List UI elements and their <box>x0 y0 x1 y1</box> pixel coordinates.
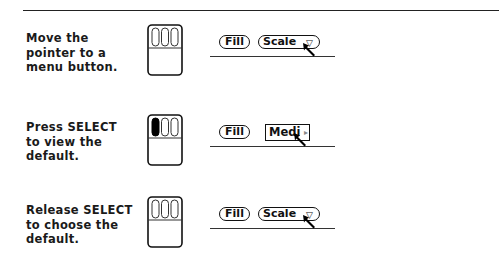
step-2: Press SELECT to view the default. Fill M… <box>0 103 499 183</box>
control-area: Fill Scale ▽ <box>210 35 340 75</box>
scale-menu-label: Scale <box>263 208 296 220</box>
arrow-pointer-icon <box>302 42 318 58</box>
control-underline <box>210 146 335 147</box>
three-button-mouse-icon <box>147 196 183 248</box>
step-2-instruction: Press SELECT to view the default. <box>26 120 117 164</box>
fill-button[interactable]: Fill <box>219 35 250 49</box>
step-3-instruction: Release SELECT to choose the default. <box>26 203 133 247</box>
arrow-pointer-icon <box>302 214 318 230</box>
fill-button[interactable]: Fill <box>219 207 250 221</box>
step-3: Release SELECT to choose the default. Fi… <box>0 187 499 267</box>
step-1: Move the pointer to a menu button. Fill … <box>0 20 499 100</box>
top-divider <box>23 10 499 11</box>
fill-button[interactable]: Fill <box>219 125 250 139</box>
three-button-mouse-select-pressed-icon <box>147 114 183 166</box>
three-button-mouse-icon <box>147 24 183 76</box>
arrow-pointer-icon <box>293 132 309 148</box>
control-area: Fill Scale ▽ <box>210 207 340 247</box>
control-area: Fill Medi ▸ <box>210 125 340 165</box>
scale-menu-label: Scale <box>263 36 296 48</box>
step-1-instruction: Move the pointer to a menu button. <box>26 31 118 75</box>
